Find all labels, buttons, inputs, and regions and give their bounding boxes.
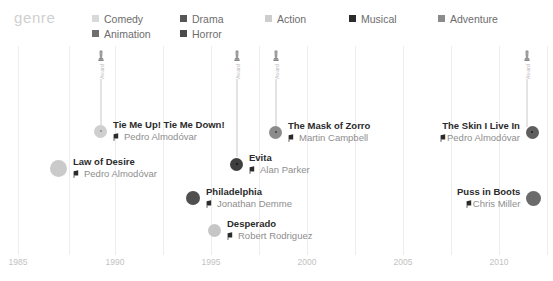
film-director: Martin Campbell <box>299 132 368 144</box>
axis-tick-1985: 1985 <box>9 257 28 267</box>
film-text: Tie Me Up! Tie Me Down! Pedro Almodóvar <box>107 119 231 143</box>
film-director-row: Pedro Almodóvar <box>73 168 157 180</box>
genre-legend: Comedy Drama Action Musical Adventure <box>92 11 532 41</box>
film-title: The Mask of Zorro <box>288 120 370 132</box>
axis-tick-1990: 1990 <box>106 257 125 267</box>
genre-dot <box>208 224 221 237</box>
award-label: Award <box>524 64 530 79</box>
award-inner-dot <box>100 130 102 132</box>
film-text: Law of Desire Pedro Almodóvar <box>67 156 163 180</box>
legend-label-adventure: Adventure <box>450 13 498 25</box>
axis-tick-2000: 2000 <box>298 257 317 267</box>
gridline <box>403 46 404 255</box>
film-entry[interactable]: Tie Me Up! Tie Me Down! Pedro Almodóvar <box>94 119 231 143</box>
oscar-statuette-icon <box>523 50 532 63</box>
award-label: Award <box>234 64 240 79</box>
award-marker[interactable]: Award <box>272 50 281 126</box>
award-inner-dot <box>531 131 533 133</box>
legend-label-horror: Horror <box>192 28 222 40</box>
film-title: Evita <box>249 152 310 164</box>
film-title: The Skin I Live In <box>440 120 520 132</box>
director-chair-icon <box>466 200 473 208</box>
film-title: Law of Desire <box>73 156 157 168</box>
film-text: Puss in Boots Chris Miller <box>451 186 526 210</box>
film-entry[interactable]: The Mask of Zorro Martin Campbell <box>269 120 376 144</box>
award-marker[interactable]: Award <box>523 50 532 127</box>
film-title: Puss in Boots <box>457 186 520 198</box>
film-title: Philadelphia <box>206 186 292 198</box>
genre-dot <box>526 126 539 139</box>
film-director: Robert Rodriguez <box>238 230 312 242</box>
legend-label-comedy: Comedy <box>104 13 143 25</box>
film-title: Tie Me Up! Tie Me Down! <box>113 119 225 131</box>
film-entry[interactable]: Law of Desire Pedro Almodóvar <box>50 156 163 180</box>
film-entry[interactable]: Desperado Robert Rodriguez <box>208 218 318 242</box>
gridline <box>163 46 164 255</box>
legend-label-animation: Animation <box>104 28 151 40</box>
film-director: Pedro Almodóvar <box>84 168 157 180</box>
legend-row-2: Animation Horror <box>92 26 532 41</box>
film-text: Philadelphia Jonathan Demme <box>200 186 298 210</box>
gridline <box>18 46 19 255</box>
legend-item-musical[interactable]: Musical <box>349 13 438 25</box>
legend-item-horror[interactable]: Horror <box>180 28 222 40</box>
director-chair-icon <box>73 170 80 178</box>
genre-dot <box>50 160 67 177</box>
director-chair-icon <box>206 200 213 208</box>
musical-swatch <box>349 15 356 22</box>
film-text: The Skin I Live In Pedro Almodóvar <box>434 120 526 144</box>
axis-tick-1995: 1995 <box>202 257 221 267</box>
film-director-row: Pedro Almodóvar <box>440 132 520 144</box>
film-entry[interactable]: The Skin I Live In Pedro Almodóvar <box>434 120 539 144</box>
gridline <box>69 46 70 255</box>
film-entry[interactable]: Evita Alan Parker <box>230 152 316 176</box>
film-title: Desperado <box>227 218 312 230</box>
genre-dot <box>230 158 243 171</box>
drama-swatch <box>180 15 187 22</box>
film-director-row: Alan Parker <box>249 164 310 176</box>
film-director-row: Robert Rodriguez <box>227 230 312 242</box>
adventure-swatch <box>438 15 445 22</box>
film-entry[interactable]: Puss in Boots Chris Miller <box>451 186 541 210</box>
gridline <box>451 46 452 255</box>
horror-swatch <box>180 30 187 37</box>
legend-item-adventure[interactable]: Adventure <box>438 13 498 25</box>
film-director: Chris Miller <box>473 198 521 210</box>
genre-dot <box>269 126 282 139</box>
page-title: genre <box>14 9 55 26</box>
director-chair-icon <box>288 134 295 142</box>
legend-item-drama[interactable]: Drama <box>180 13 265 25</box>
timeline-visualization: genre Comedy Drama Action Musical Advent… <box>0 0 553 281</box>
film-director: Alan Parker <box>260 164 310 176</box>
film-entry[interactable]: Philadelphia Jonathan Demme <box>186 186 298 210</box>
genre-dot <box>94 125 107 138</box>
film-director-row: Jonathan Demme <box>206 198 292 210</box>
gridline <box>547 46 548 255</box>
film-director-row: Chris Miller <box>457 198 520 210</box>
legend-row-1: Comedy Drama Action Musical Adventure <box>92 11 532 26</box>
genre-dot <box>186 191 200 205</box>
director-chair-icon <box>249 166 256 174</box>
film-director-row: Martin Campbell <box>288 132 370 144</box>
award-label: Award <box>98 64 104 79</box>
comedy-swatch <box>92 15 99 22</box>
award-marker[interactable]: Award <box>233 50 242 157</box>
director-chair-icon <box>113 133 120 141</box>
genre-dot <box>526 191 541 206</box>
award-label: Award <box>273 64 279 79</box>
legend-item-animation[interactable]: Animation <box>92 28 180 40</box>
director-chair-icon <box>227 232 234 240</box>
legend-item-action[interactable]: Action <box>265 13 349 25</box>
film-director: Pedro Almodóvar <box>447 132 520 144</box>
film-director: Pedro Almodóvar <box>124 131 197 143</box>
director-chair-icon <box>440 134 447 142</box>
award-marker[interactable]: Award <box>97 50 106 125</box>
film-text: The Mask of Zorro Martin Campbell <box>282 120 376 144</box>
oscar-statuette-icon <box>233 50 242 63</box>
film-text: Desperado Robert Rodriguez <box>221 218 318 242</box>
legend-label-musical: Musical <box>361 13 397 25</box>
legend-label-drama: Drama <box>192 13 224 25</box>
legend-item-comedy[interactable]: Comedy <box>92 13 180 25</box>
axis-tick-2005: 2005 <box>394 257 413 267</box>
plot-area: 1985 1990 1995 2000 2005 2010 Award <box>0 46 553 281</box>
